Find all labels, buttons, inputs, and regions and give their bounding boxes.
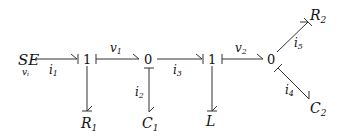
node-source-se: SE vi [18, 51, 39, 77]
node-l: L [205, 113, 215, 129]
junction-0-a: 0 [144, 52, 152, 67]
junction-1-a: 1 [83, 52, 91, 67]
svg-text:v1: v1 [110, 41, 122, 56]
junction-1-b: 1 [208, 52, 216, 67]
bond-i2: i2 [135, 68, 154, 112]
bond-v2: v2 [222, 41, 263, 64]
node-c2: C2 [310, 100, 327, 118]
node-r1: R1 [80, 115, 97, 133]
svg-text:v2: v2 [235, 41, 247, 56]
svg-text:i2: i2 [135, 85, 144, 100]
bond-to-r1 [82, 66, 92, 111]
svg-text:i5: i5 [294, 36, 303, 51]
svg-text:i4: i4 [285, 83, 294, 98]
bond-graph-canvas: SE vi i1 1 R1 v1 0 i2 C1 i3 1 [0, 0, 341, 138]
bond-i3: i3 [157, 54, 203, 78]
bond-i5: i5 [277, 18, 312, 52]
node-r2: R2 [309, 7, 327, 25]
svg-text:i3: i3 [173, 63, 182, 78]
bond-to-l [207, 66, 217, 111]
bond-i1: i1 [35, 54, 78, 78]
bond-i4: i4 [274, 64, 309, 99]
node-c1: C1 [142, 115, 158, 133]
junction-0-b: 0 [267, 52, 275, 67]
svg-text:i1: i1 [49, 63, 58, 78]
bond-v1: v1 [96, 41, 139, 64]
